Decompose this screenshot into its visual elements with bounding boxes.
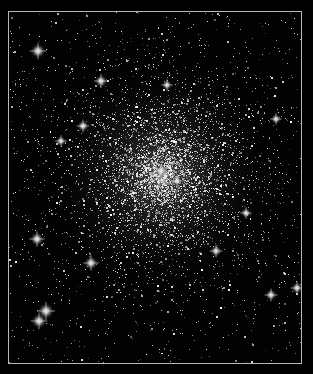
star-field (9, 12, 302, 364)
star-cluster-image (8, 11, 302, 364)
